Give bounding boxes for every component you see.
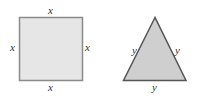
square-label-bottom: x (47, 81, 53, 93)
triangle-label-right: y (174, 44, 180, 56)
square-label-right: x (84, 41, 90, 53)
shapes-diagram: x x x x y y y (0, 0, 200, 96)
triangle-label-bottom: y (151, 81, 157, 93)
triangle-figure: y y y (124, 18, 187, 94)
square-shape (20, 18, 83, 81)
triangle-label-left: y (131, 44, 137, 56)
square-label-left: x (9, 41, 15, 53)
square-figure: x x x x (9, 4, 90, 93)
square-label-top: x (47, 4, 53, 16)
